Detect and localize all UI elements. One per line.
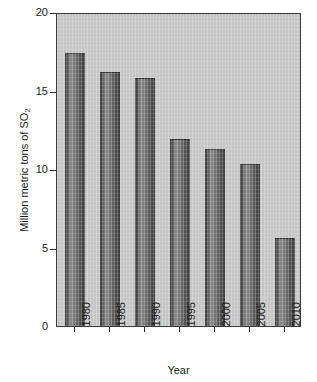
bar (135, 78, 155, 326)
bar (170, 139, 190, 326)
x-axis-tick-label: 1985 (115, 302, 127, 336)
x-axis-tick-label: 1980 (80, 302, 92, 336)
x-axis-title: Year (56, 364, 301, 376)
x-axis-tick-mark (249, 327, 250, 332)
x-axis-tick-mark (74, 327, 75, 332)
bar (205, 149, 225, 326)
bar-chart-figure: Million metric tons of SO2 05101520 Year… (0, 0, 317, 382)
x-axis-tick-label: 2005 (255, 302, 267, 336)
x-axis-tick-label: 2010 (290, 302, 302, 336)
x-axis-tick-label: 1995 (185, 302, 197, 336)
y-axis-tick-label: 5 (28, 243, 48, 254)
x-axis-tick-mark (284, 327, 285, 332)
plot-area (56, 13, 301, 327)
x-axis-tick-mark (179, 327, 180, 332)
bar (65, 53, 85, 326)
bar (100, 72, 120, 326)
x-axis-tick-mark (144, 327, 145, 332)
x-axis-tick-mark (109, 327, 110, 332)
x-axis-tick-label: 2000 (220, 302, 232, 336)
x-axis-tick-mark (214, 327, 215, 332)
y-axis-tick-labels: 05101520 (28, 0, 48, 382)
y-axis-tick-label: 15 (28, 86, 48, 97)
x-axis-tick-label: 1990 (150, 302, 162, 336)
y-axis-tick-label: 10 (28, 164, 48, 175)
y-axis-tick-label: 20 (28, 7, 48, 18)
